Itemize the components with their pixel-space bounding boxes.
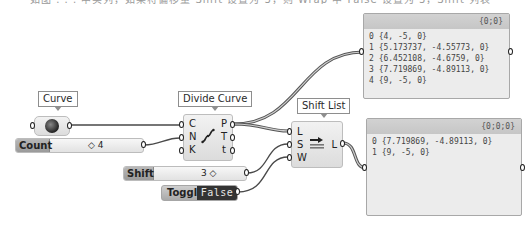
- divide-t-lower-grip[interactable]: [230, 147, 235, 154]
- points-panel-output-grip[interactable]: [508, 48, 513, 55]
- list-item: 1 {5.173737, -4.55773, 0}: [364, 42, 509, 53]
- shift-input-s[interactable]: S: [297, 139, 303, 151]
- shift-s-grip[interactable]: [287, 141, 292, 148]
- divide-input-c[interactable]: C: [189, 118, 196, 130]
- divide-output-t-lower[interactable]: t: [222, 144, 226, 156]
- list-item: 2 {6.452108, -4.6759, 0}: [364, 53, 509, 64]
- wire-count-to-divide-n: [144, 138, 180, 145]
- divide-c-grip[interactable]: [179, 121, 184, 128]
- shifted-panel-path: {0;0;0}: [367, 119, 521, 134]
- divide-input-n[interactable]: N: [189, 131, 196, 143]
- points-panel-input-grip[interactable]: [359, 48, 364, 55]
- divide-curve-tag: Divide Curve: [178, 91, 252, 107]
- shift-slider-value[interactable]: 3 ◇: [201, 167, 217, 180]
- shift-list-component[interactable]: L S W L: [291, 121, 343, 168]
- toggle-output-grip[interactable]: [235, 188, 240, 195]
- count-slider-value[interactable]: ◇ 4: [88, 139, 104, 152]
- curve-param[interactable]: [34, 116, 70, 136]
- divide-n-grip[interactable]: [179, 134, 184, 141]
- divide-output-p[interactable]: P: [221, 118, 227, 130]
- shift-list-icon: [309, 136, 325, 150]
- divide-output-t[interactable]: T: [221, 131, 227, 143]
- shifted-panel-output-grip[interactable]: [520, 164, 525, 171]
- points-panel-path: {0;0}: [364, 14, 509, 29]
- shift-out-grip[interactable]: [340, 140, 345, 147]
- divide-t-grip[interactable]: [230, 134, 235, 141]
- count-output-grip[interactable]: [141, 141, 146, 148]
- boolean-toggle[interactable]: Toggle False: [161, 185, 238, 201]
- count-slider-label: Count: [16, 139, 50, 152]
- shift-w-grip[interactable]: [287, 154, 292, 161]
- list-item: 4 {9, -5, 0}: [364, 75, 509, 86]
- curve-param-icon: [45, 119, 59, 133]
- list-item: 0 {7.719869, -4.89113, 0}: [367, 136, 521, 147]
- curve-input-grip[interactable]: [30, 122, 35, 129]
- shifted-panel[interactable]: {0;0;0} 0 {7.719869, -4.89113, 0} 1 {9, …: [366, 118, 522, 216]
- shift-slider[interactable]: Shift 3 ◇: [123, 166, 247, 181]
- shift-output-l[interactable]: L: [331, 139, 337, 151]
- points-panel[interactable]: {0;0} 0 {4, -5, 0} 1 {5.173737, -4.55773…: [363, 13, 510, 99]
- curve-output-grip[interactable]: [67, 122, 72, 129]
- divide-curve-icon: [201, 128, 215, 144]
- divide-p-grip[interactable]: [230, 121, 235, 128]
- shift-input-l[interactable]: L: [297, 126, 303, 138]
- divide-curve-component[interactable]: C N K P T t: [183, 114, 233, 161]
- shifted-panel-input-grip[interactable]: [362, 164, 367, 171]
- shift-slider-label: Shift: [124, 167, 154, 180]
- shift-l-grip[interactable]: [287, 128, 292, 135]
- list-item: 3 {7.719869, -4.89113, 0}: [364, 64, 509, 75]
- list-item: 0 {4, -5, 0}: [364, 31, 509, 42]
- shift-list-tag: Shift List: [297, 98, 350, 114]
- list-item: 1 {9, -5, 0}: [367, 147, 521, 158]
- divide-k-grip[interactable]: [179, 147, 184, 154]
- shift-input-w[interactable]: W: [297, 152, 307, 164]
- divide-input-k[interactable]: K: [189, 144, 196, 156]
- shift-slider-output-grip[interactable]: [244, 169, 249, 176]
- count-slider[interactable]: Count ◇ 4: [15, 138, 144, 153]
- toggle-state[interactable]: False: [197, 186, 237, 200]
- curve-tag: Curve: [38, 91, 78, 107]
